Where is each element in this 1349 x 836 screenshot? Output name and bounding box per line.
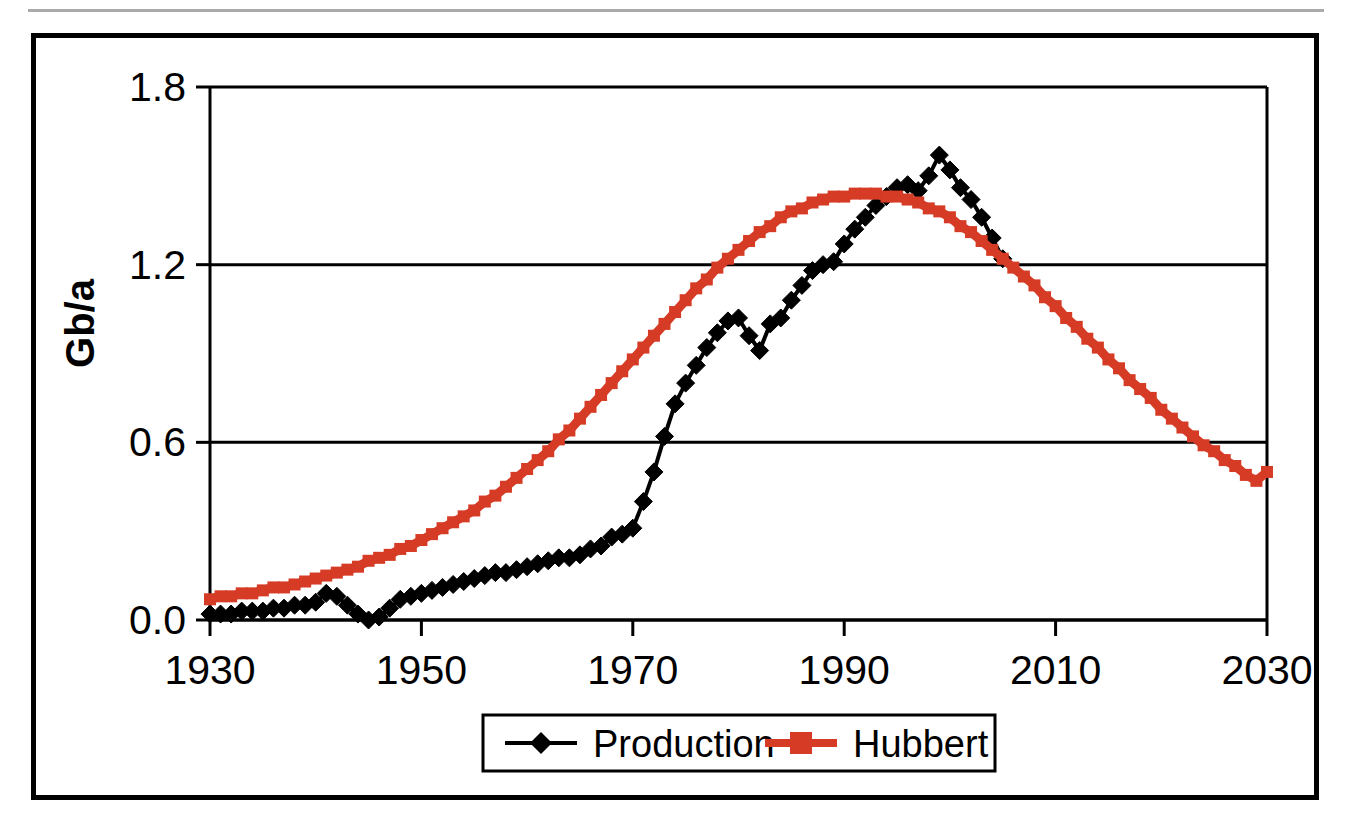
legend-item-label: Hubbert	[853, 723, 989, 765]
x-tick-label: 1970	[587, 647, 678, 693]
data-point-marker	[976, 235, 988, 247]
top-horizontal-rule	[28, 9, 1324, 12]
data-point-marker	[677, 374, 695, 392]
data-point-marker	[405, 540, 417, 552]
data-point-marker	[331, 567, 343, 579]
data-point-marker	[215, 590, 227, 602]
data-point-marker	[532, 454, 544, 466]
data-point-marker	[880, 191, 892, 203]
data-point-marker	[722, 253, 734, 265]
data-point-marker	[838, 191, 850, 203]
data-point-marker	[764, 220, 776, 232]
data-point-marker	[521, 463, 533, 475]
data-point-marker	[954, 220, 966, 232]
data-point-marker	[616, 365, 628, 377]
data-point-marker	[1198, 439, 1210, 451]
data-point-marker	[870, 188, 882, 200]
data-point-marker	[1145, 392, 1157, 404]
data-point-marker	[775, 211, 787, 223]
x-axis-ticks: 193019501970199020102030	[164, 620, 1312, 693]
data-point-marker	[426, 528, 438, 540]
data-point-marker	[458, 510, 470, 522]
data-point-marker	[278, 581, 290, 593]
data-point-marker	[828, 191, 840, 203]
data-point-marker	[352, 561, 364, 573]
data-point-marker	[659, 318, 671, 330]
data-point-marker	[849, 188, 861, 200]
y-tick-label: 1.2	[129, 242, 186, 288]
data-point-marker	[965, 226, 977, 238]
data-point-marker	[645, 463, 663, 481]
data-point-marker	[627, 353, 639, 365]
data-point-marker	[933, 205, 945, 217]
x-tick-label: 1990	[799, 647, 890, 693]
data-point-marker	[796, 202, 808, 214]
data-point-marker	[225, 590, 237, 602]
data-point-marker	[1187, 430, 1199, 442]
data-point-marker	[437, 522, 449, 534]
data-point-marker	[743, 235, 755, 247]
data-point-marker	[891, 191, 903, 203]
data-point-marker	[669, 306, 681, 318]
data-point-marker	[373, 552, 385, 564]
data-point-marker	[320, 570, 332, 582]
data-point-marker	[489, 490, 501, 502]
data-point-marker	[1219, 454, 1231, 466]
data-point-marker	[415, 534, 427, 546]
plot-area-wrapper: 0.00.61.21.8193019501970199020102030Gb/a…	[36, 38, 1314, 795]
data-point-marker	[1250, 475, 1262, 487]
x-tick-label: 1930	[164, 647, 255, 693]
data-point-marker	[500, 481, 512, 493]
data-point-marker	[912, 196, 924, 208]
data-point-marker	[1113, 362, 1125, 374]
data-point-marker	[1007, 262, 1019, 274]
data-point-marker	[666, 395, 684, 413]
data-point-marker	[310, 573, 322, 585]
data-point-marker	[468, 504, 480, 516]
data-point-marker	[1261, 466, 1273, 478]
data-point-marker	[1155, 404, 1167, 416]
y-axis-ticks: 0.00.61.21.8	[129, 64, 210, 643]
data-point-marker	[711, 262, 723, 274]
y-tick-label: 1.8	[129, 64, 186, 110]
data-point-marker	[1039, 291, 1051, 303]
data-point-marker	[1176, 422, 1188, 434]
data-point-marker	[542, 445, 554, 457]
data-point-marker	[1240, 469, 1252, 481]
data-point-marker	[1018, 271, 1030, 283]
data-point-marker	[1102, 353, 1114, 365]
data-point-marker	[973, 208, 991, 226]
hubbert-production-chart: 0.00.61.21.8193019501970199020102030Gb/a…	[36, 38, 1314, 795]
data-point-marker	[733, 244, 745, 256]
data-point-marker	[299, 576, 311, 588]
x-tick-label: 1950	[376, 647, 467, 693]
data-point-marker	[806, 196, 818, 208]
data-point-marker	[648, 330, 660, 342]
y-tick-label: 0.0	[129, 597, 186, 643]
data-point-marker	[1134, 383, 1146, 395]
data-point-marker	[859, 188, 871, 200]
data-point-marker	[817, 194, 829, 206]
data-point-marker	[563, 424, 575, 436]
data-point-marker	[687, 356, 705, 374]
data-point-marker	[785, 205, 797, 217]
data-point-marker	[574, 413, 586, 425]
x-tick-label: 2010	[1010, 647, 1101, 693]
y-tick-label: 0.6	[129, 419, 186, 465]
data-point-marker	[634, 493, 652, 511]
data-point-marker	[1050, 300, 1062, 312]
data-point-marker	[690, 282, 702, 294]
legend-item-label: Production	[593, 723, 775, 765]
data-point-marker	[447, 516, 459, 528]
data-point-marker	[1028, 279, 1040, 291]
data-point-marker	[289, 578, 301, 590]
data-point-marker	[1229, 460, 1241, 472]
chart-legend: ProductionHubbert	[483, 715, 995, 771]
data-point-marker	[986, 244, 998, 256]
data-point-marker	[341, 564, 353, 576]
data-point-marker	[902, 194, 914, 206]
data-point-marker	[384, 549, 396, 561]
data-point-marker	[637, 342, 649, 354]
data-point-marker	[1166, 413, 1178, 425]
data-point-marker	[1060, 312, 1072, 324]
